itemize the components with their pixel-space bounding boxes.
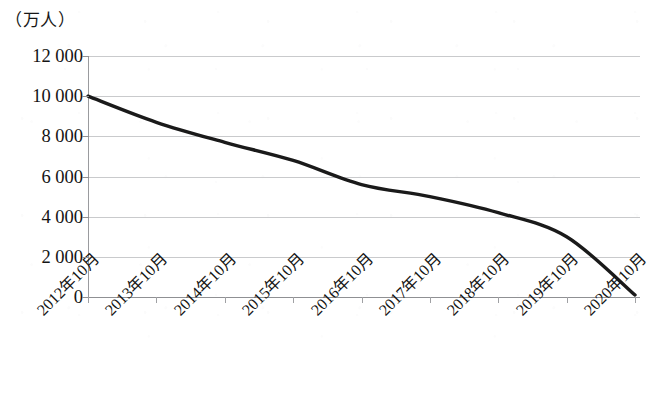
y-axis-tick-label: 6 000	[3, 168, 83, 187]
y-axis-tick-label: 8 000	[3, 127, 83, 146]
y-axis-tick-mark	[82, 177, 89, 178]
x-axis-tick-mark	[225, 297, 226, 303]
x-axis-tick-mark	[635, 297, 636, 303]
y-axis-tick-label: 4 000	[3, 208, 83, 227]
x-axis-tick-mark	[293, 297, 294, 303]
y-axis-tick-mark	[82, 96, 89, 97]
x-axis-tick-mark	[430, 297, 431, 303]
y-axis-tick-label: 10 000	[3, 87, 83, 106]
y-axis-tick-mark	[82, 257, 89, 258]
y-axis-tick-mark	[82, 217, 89, 218]
y-axis-tick-label-group: 02 0004 0006 0008 00010 00012 000	[0, 0, 83, 406]
y-axis-tick-label: 12 000	[3, 47, 83, 66]
line-chart: （万人） 02 0004 0006 0008 00010 00012 000 2…	[0, 0, 647, 406]
x-axis-tick-mark	[88, 297, 89, 303]
x-axis-tick-mark	[156, 297, 157, 303]
x-axis-tick-mark	[567, 297, 568, 303]
y-axis-tick-mark	[82, 56, 89, 57]
x-axis-tick-mark	[498, 297, 499, 303]
y-axis-tick-mark	[82, 136, 89, 137]
x-axis-tick-mark	[362, 297, 363, 303]
